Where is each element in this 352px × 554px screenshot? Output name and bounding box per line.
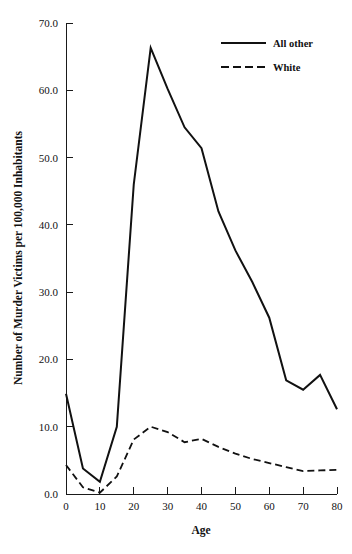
legend-label-all-other: All other [273,38,313,49]
chart-legend: All other White [221,38,313,73]
x-tick-label: 30 [162,500,174,512]
y-tick-label: 0.0 [44,488,58,500]
y-tick-label: 70.0 [39,17,59,29]
x-tick-label: 0 [63,500,69,512]
y-tick-label: 20.0 [39,353,59,365]
line-chart: 0.010.020.030.040.050.060.070.0 01020304… [0,0,352,554]
x-tick-label: 10 [94,500,106,512]
x-axis-ticks: 01020304050607080 [63,487,343,512]
y-tick-label: 40.0 [39,219,59,231]
series-line-all-other [66,48,337,482]
x-tick-label: 40 [196,500,208,512]
x-tick-label: 60 [264,500,276,512]
y-axis-title: Number of Murder Victims per 100,000 Inh… [12,130,25,384]
x-tick-label: 20 [128,500,140,512]
x-tick-label: 70 [298,500,310,512]
legend-label-white: White [273,62,301,73]
x-axis-title: Age [191,524,210,537]
x-tick-label: 50 [230,500,242,512]
y-tick-label: 60.0 [39,84,59,96]
chart-figure: 0.010.020.030.040.050.060.070.0 01020304… [0,0,352,554]
y-tick-label: 50.0 [39,152,59,164]
y-tick-label: 30.0 [39,286,59,298]
y-tick-label: 10.0 [39,421,59,433]
x-tick-label: 80 [332,500,344,512]
y-axis-ticks: 0.010.020.030.040.050.060.070.0 [39,17,73,500]
